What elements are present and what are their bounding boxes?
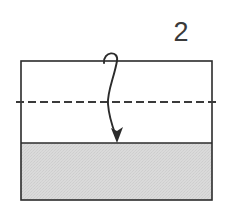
fold-step-diagram: 2 — [0, 0, 230, 218]
step-number-label: 2 — [166, 17, 196, 47]
shaded-bottom-band — [21, 143, 212, 200]
